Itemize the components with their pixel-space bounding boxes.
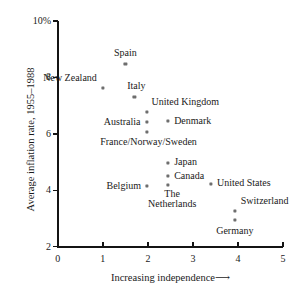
scatter-chart: 246810% 012345 SpainNew ZealandItalyUnit… bbox=[0, 0, 301, 298]
data-point bbox=[145, 185, 148, 188]
data-point-label: United Kingdom bbox=[152, 97, 220, 108]
data-point bbox=[145, 110, 148, 113]
data-point bbox=[124, 62, 127, 65]
data-point bbox=[167, 183, 170, 186]
x-tick-label: 5 bbox=[281, 254, 286, 264]
data-point-label: Spain bbox=[114, 48, 137, 59]
data-point-label: Japan bbox=[174, 157, 197, 168]
x-axis-line bbox=[57, 246, 283, 248]
x-tick-mark bbox=[57, 242, 58, 247]
x-tick-label: 3 bbox=[190, 254, 195, 264]
data-point-label: Italy bbox=[127, 81, 145, 92]
x-tick-mark bbox=[147, 242, 148, 247]
data-point bbox=[233, 209, 236, 212]
data-point-label: The Netherlands bbox=[148, 188, 196, 209]
y-axis-title: Average inflation rate, 1955–1988 bbox=[25, 40, 36, 240]
x-tick-label: 4 bbox=[235, 254, 240, 264]
data-point bbox=[209, 183, 212, 186]
x-tick-mark bbox=[192, 242, 193, 247]
data-point-label: New Zealand bbox=[43, 73, 97, 84]
data-point bbox=[133, 95, 136, 98]
x-tick-mark bbox=[102, 242, 103, 247]
x-tick-label: 0 bbox=[55, 254, 60, 264]
data-point-label: Denmark bbox=[174, 116, 211, 127]
data-point-label: Canada bbox=[174, 171, 204, 182]
data-point bbox=[167, 161, 170, 164]
data-point-label: France/Norway/Sweden bbox=[100, 137, 197, 148]
data-point-label: Switzerland bbox=[241, 196, 289, 207]
y-tick-mark bbox=[53, 20, 58, 21]
data-point-label: Australia bbox=[104, 117, 141, 128]
data-point-label: United States bbox=[217, 178, 271, 189]
y-tick-label: 2 bbox=[14, 242, 51, 252]
x-axis-title-text: Increasing independence bbox=[111, 272, 215, 283]
x-tick-label: 2 bbox=[145, 254, 150, 264]
data-point-label: Belgium bbox=[107, 181, 141, 192]
data-point bbox=[145, 120, 148, 123]
data-point bbox=[167, 120, 170, 123]
data-point bbox=[233, 218, 236, 221]
data-point-label: Germany bbox=[216, 226, 253, 237]
data-point bbox=[167, 174, 170, 177]
x-tick-mark bbox=[237, 242, 238, 247]
y-tick-mark bbox=[53, 133, 58, 134]
data-point bbox=[145, 130, 148, 133]
data-point bbox=[101, 86, 104, 89]
y-tick-mark bbox=[53, 190, 58, 191]
x-tick-label: 1 bbox=[100, 254, 105, 264]
x-tick-mark bbox=[282, 242, 283, 247]
right-arrow-icon: ⟶ bbox=[215, 272, 229, 283]
y-tick-label: 10% bbox=[14, 16, 51, 26]
x-axis-title: Increasing independence⟶ bbox=[57, 272, 283, 284]
